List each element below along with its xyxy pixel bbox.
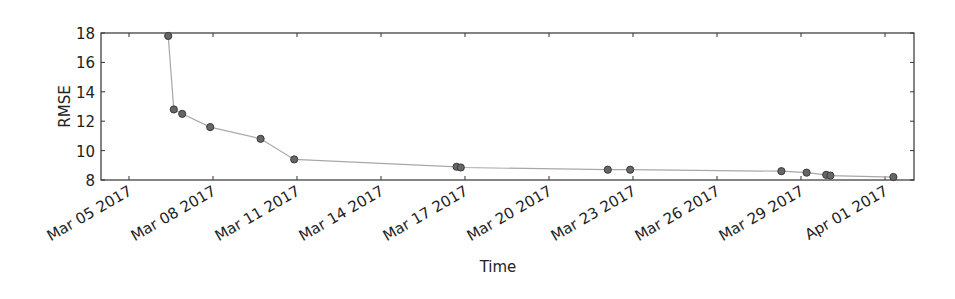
data-point-marker [803, 169, 810, 176]
x-tick-label: Mar 29 2017 [716, 182, 807, 245]
data-point-marker [207, 123, 214, 130]
data-point-marker [257, 135, 264, 142]
data-point-marker [604, 166, 611, 173]
x-tick-label: Mar 08 2017 [128, 182, 219, 245]
plot-area [101, 33, 914, 180]
x-tick-label: Mar 26 2017 [632, 182, 723, 245]
data-point-marker [165, 32, 172, 39]
rmse-line-chart: 81012141618 Mar 05 2017Mar 08 2017Mar 11… [0, 0, 955, 299]
y-tick-label: 10 [76, 143, 95, 161]
data-point-marker [778, 168, 785, 175]
x-tick-label: Apr 01 2017 [802, 182, 891, 244]
x-axis-label: Time [479, 258, 517, 276]
data-point-marker [827, 172, 834, 179]
data-point-marker [457, 164, 464, 171]
data-point-marker [890, 173, 897, 180]
x-tick-label: Mar 17 2017 [380, 182, 471, 245]
y-tick-label: 14 [76, 84, 95, 102]
data-point-marker [627, 166, 634, 173]
data-point-marker [170, 106, 177, 113]
x-tick-label: Mar 20 2017 [464, 182, 555, 245]
x-tick-label: Mar 11 2017 [212, 182, 303, 245]
data-point-marker [291, 156, 298, 163]
y-axis-label: RMSE [56, 85, 74, 127]
x-tick-label: Mar 23 2017 [548, 182, 639, 245]
data-point-marker [179, 110, 186, 117]
y-tick-label: 18 [76, 25, 95, 43]
x-tick-label: Mar 05 2017 [44, 182, 135, 245]
x-tick-label: Mar 14 2017 [296, 182, 387, 245]
y-tick-label: 8 [85, 172, 95, 190]
y-tick-label: 16 [76, 54, 95, 72]
y-tick-label: 12 [76, 113, 95, 131]
